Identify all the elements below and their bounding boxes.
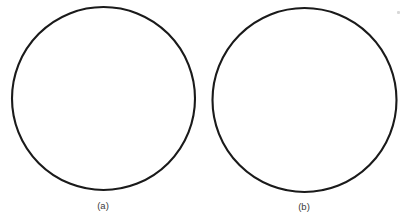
- figure-container: (a) (b): [0, 0, 411, 224]
- figure-background: [0, 0, 411, 224]
- figure-canvas: [0, 0, 411, 224]
- panel-caption-b: (b): [274, 201, 334, 212]
- panel-caption-a: (a): [73, 200, 133, 211]
- scan-speck-artifact: [397, 11, 400, 14]
